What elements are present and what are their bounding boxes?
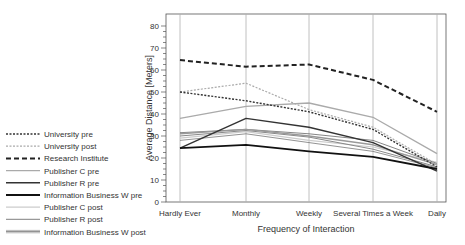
legend-item: Information Business W pre (6, 191, 143, 200)
y-tick-label: 80 (150, 22, 159, 31)
series-line (180, 145, 437, 169)
x-tick-label: Weekly (296, 209, 322, 218)
legend-item: Publisher C pre (6, 167, 100, 176)
legend-label: Research Institute (44, 154, 109, 163)
y-tick-label: 0 (155, 198, 160, 207)
x-tick-label: Several Times a Week (333, 209, 414, 218)
x-tick-label: Hardly Ever (159, 209, 201, 218)
y-tick-label: 70 (150, 44, 159, 53)
line-chart: 01020304050607080 Hardly EverMonthlyWeek… (0, 0, 465, 245)
series-line (180, 60, 437, 112)
category-gridlines (180, 14, 437, 202)
legend-item: University post (6, 142, 97, 151)
legend-label: University post (44, 142, 97, 151)
data-series (180, 60, 437, 171)
legend-item: Information Business W post (6, 228, 147, 237)
legend: University preUniversity postResearch In… (6, 130, 147, 237)
x-axis-title: Frequency of Interaction (257, 224, 354, 234)
legend-item: Publisher C post (6, 203, 103, 212)
plot-frame (166, 14, 446, 202)
legend-item: Research Institute (6, 154, 109, 163)
legend-label: Publisher R post (44, 215, 103, 224)
series-line (180, 118, 437, 171)
legend-item: Publisher R post (6, 215, 103, 224)
y-tick-label: 10 (150, 176, 159, 185)
legend-item: Publisher R pre (6, 179, 100, 188)
x-tick-label: Monthly (232, 209, 260, 218)
legend-item: University pre (6, 130, 93, 139)
legend-label: Publisher C post (44, 203, 103, 212)
legend-label: Publisher R pre (44, 179, 100, 188)
legend-label: University pre (44, 130, 93, 139)
x-tick-label: Daily (428, 209, 446, 218)
legend-label: Information Business W post (44, 228, 147, 237)
x-axis: Hardly EverMonthlyWeeklySeveral Times a … (159, 209, 446, 218)
legend-label: Publisher C pre (44, 167, 100, 176)
legend-label: Information Business W pre (44, 191, 143, 200)
y-axis-title: Average Distance [Meters] (144, 55, 154, 161)
